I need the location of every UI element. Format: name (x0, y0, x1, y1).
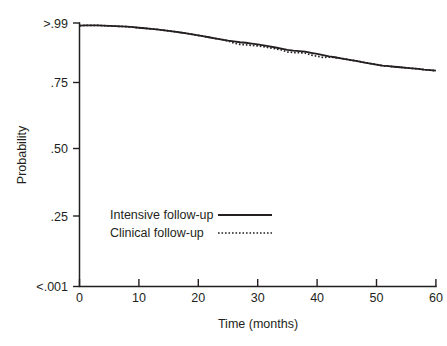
x-tick-label-6: 60 (429, 291, 443, 305)
x-axis-title: Time (months) (218, 317, 298, 331)
legend-label-clinical: Clinical follow-up (110, 226, 204, 240)
y-tick-label-4: <.001 (36, 280, 68, 294)
x-tick-label-0: 0 (76, 291, 83, 305)
x-tick-label-4: 40 (310, 291, 324, 305)
y-tick-label-2: .50 (51, 142, 68, 156)
y-tick-label-3: .25 (51, 210, 68, 224)
y-axis-title: Probability (15, 125, 29, 184)
x-tick-label-1: 10 (132, 291, 146, 305)
x-tick-label-5: 50 (370, 291, 384, 305)
survival-chart: >.99 .75 .50 .25 <.001 0 10 20 30 40 50 … (0, 0, 447, 346)
x-tick-label-2: 20 (191, 291, 205, 305)
y-tick-label-1: .75 (51, 76, 68, 90)
x-tick-label-3: 30 (251, 291, 265, 305)
legend-label-intensive: Intensive follow-up (110, 208, 214, 222)
kaplan-meier-plot: >.99 .75 .50 .25 <.001 0 10 20 30 40 50 … (0, 0, 447, 346)
y-tick-label-0: >.99 (43, 17, 68, 31)
